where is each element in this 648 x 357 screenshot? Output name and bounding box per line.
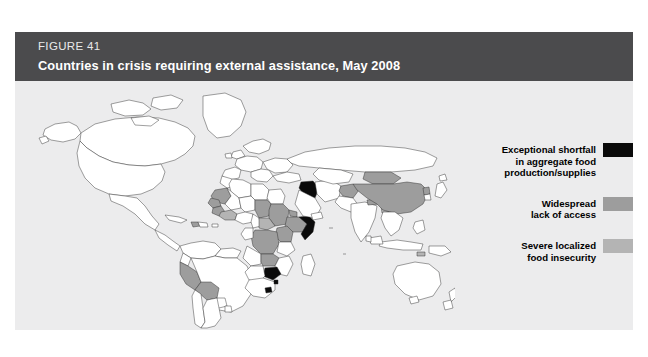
country-lesotho (265, 287, 272, 293)
country-canada-arctic-west (111, 100, 151, 116)
figure-title: Countries in crisis requiring external a… (38, 56, 633, 75)
country-greenland (203, 93, 246, 138)
country-tasmania (409, 296, 419, 304)
country-korea-dpr (423, 187, 430, 195)
country-canada-arctic-east (151, 95, 183, 110)
world-map (25, 86, 455, 330)
country-niger (239, 196, 255, 212)
country-chad (255, 200, 271, 218)
country-italy-balkans (251, 169, 273, 182)
legend-label-line: Severe localized (521, 240, 596, 252)
country-indochina (381, 212, 403, 236)
legend-item-exceptional-shortfall: Exceptional shortfall in aggregate food … (445, 143, 633, 179)
country-timor-leste (417, 252, 425, 256)
country-new-zealand-north (449, 288, 455, 302)
country-india (351, 202, 377, 242)
country-new-zealand-south (443, 300, 453, 310)
legend-swatch-widespread-lack-of-access (603, 197, 633, 211)
country-zimbabwe (263, 267, 281, 280)
legend-item-widespread-lack-of-access: Widespread lack of access (445, 197, 633, 221)
country-libya (251, 184, 269, 200)
country-russia (287, 146, 437, 172)
country-korea-rep (424, 194, 431, 200)
country-puerto-rico (212, 224, 218, 227)
figure-number: FIGURE 41 (38, 39, 633, 54)
country-madagascar (301, 254, 315, 276)
legend-label-line: in aggregate food (502, 156, 596, 168)
world-map-svg (25, 86, 455, 330)
country-turkey (273, 172, 301, 183)
country-australia (393, 262, 441, 300)
map-legend: Exceptional shortfall in aggregate food … (445, 143, 633, 281)
country-alaska (43, 122, 81, 142)
figure-header: FIGURE 41 Countries in crisis requiring … (15, 32, 633, 81)
country-dominican-republic (198, 222, 208, 227)
country-philippines (413, 220, 425, 234)
country-uruguay (225, 306, 232, 312)
legend-label-line: production/supplies (502, 167, 596, 179)
country-ireland (225, 153, 232, 158)
legend-swatch-severe-localized-food-insecurity (603, 239, 633, 253)
legend-label-line: Exceptional shortfall (502, 144, 596, 156)
country-sri-lanka (366, 236, 371, 242)
country-tanzania (277, 242, 295, 256)
legend-label-line: Widespread (531, 198, 596, 210)
country-central-america (155, 230, 180, 251)
country-eritrea (289, 210, 297, 217)
legend-swatch-exceptional-shortfall (603, 143, 633, 157)
figure-panel: FIGURE 41 Countries in crisis requiring … (15, 32, 633, 330)
country-nigeria (235, 212, 253, 224)
legend-item-label: Severe localized food insecurity (521, 239, 596, 263)
legend-item-label: Widespread lack of access (531, 197, 596, 221)
country-swaziland (274, 280, 278, 284)
legend-item-label: Exceptional shortfall in aggregate food … (502, 143, 596, 179)
figure-body: Exceptional shortfall in aggregate food … (15, 81, 633, 330)
country-scandinavia (243, 139, 271, 154)
legend-label-line: lack of access (531, 209, 596, 221)
country-indonesia (379, 240, 423, 250)
country-mongolia (363, 172, 401, 184)
country-egypt (267, 189, 285, 204)
legend-item-severe-localized-food-insecurity: Severe localized food insecurity (445, 239, 633, 263)
country-cuba (165, 215, 187, 223)
legend-label-line: food insecurity (521, 252, 596, 264)
country-argentina (201, 298, 221, 328)
country-gabon-congo (241, 228, 253, 240)
country-mexico (109, 194, 159, 230)
country-dr-congo (251, 230, 279, 254)
